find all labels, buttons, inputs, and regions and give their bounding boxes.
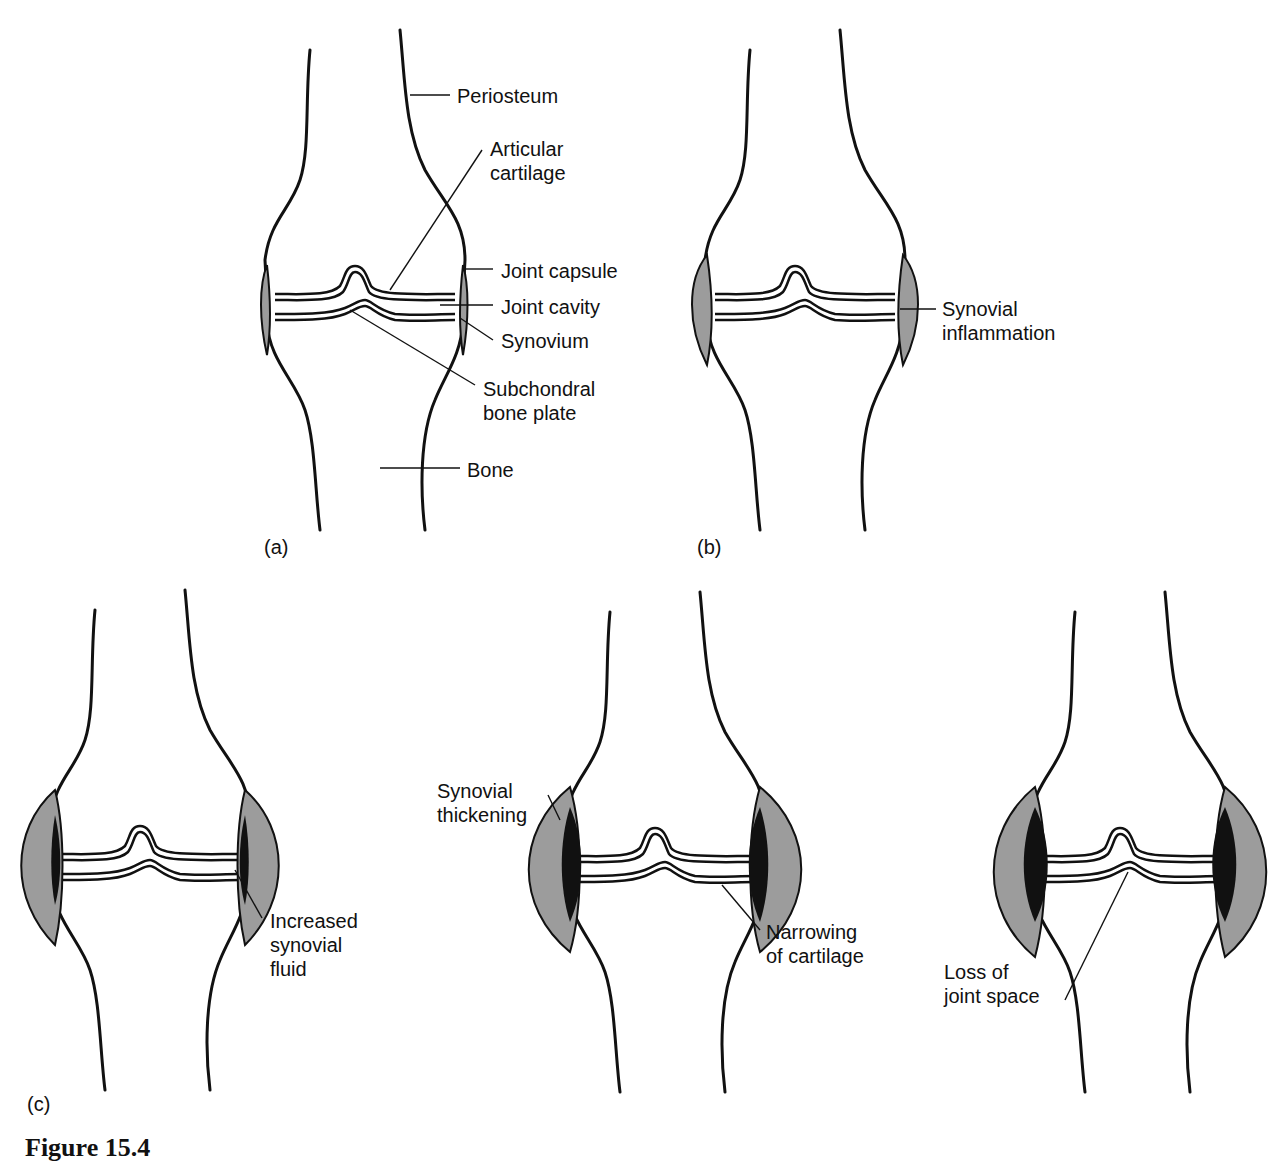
label-joint-cavity: Joint cavity [501, 295, 600, 319]
label-synovial-inflammation: Synovial inflammation [942, 297, 1055, 345]
label-loss-line1: Loss of [944, 960, 1040, 984]
panel-label-c: (c) [27, 1093, 50, 1116]
label-articular-cartilage-line2: cartilage [490, 161, 566, 185]
label-thickening-line1: Synovial [437, 779, 527, 803]
label-increased-synovial-fluid: Increased synovial fluid [270, 909, 358, 981]
label-periosteum: Periosteum [457, 84, 558, 108]
panel-label-b: (b) [697, 536, 721, 559]
label-synovial-thickening: Synovial thickening [437, 779, 527, 827]
panel-b-joint [692, 30, 918, 530]
label-thickening-line2: thickening [437, 803, 527, 827]
label-subchondral-bone-plate: Subchondral bone plate [483, 377, 595, 425]
label-increased-line2: synovial [270, 933, 358, 957]
label-joint-capsule: Joint capsule [501, 259, 618, 283]
panel-c-stage3-joint [994, 592, 1267, 1092]
label-synovium: Synovium [501, 329, 589, 353]
label-increased-line3: fluid [270, 957, 358, 981]
label-articular-cartilage: Articular cartilage [490, 137, 566, 185]
panel-c-stage1-joint [21, 590, 279, 1090]
label-loss-of-joint-space: Loss of joint space [944, 960, 1040, 1008]
label-synovial-inflammation-line1: Synovial [942, 297, 1055, 321]
panel-a-joint [261, 30, 468, 530]
label-narrowing-line2: of cartilage [766, 944, 864, 968]
panel-label-a: (a) [264, 536, 288, 559]
label-synovial-inflammation-line2: inflammation [942, 321, 1055, 345]
label-narrowing-line1: Narrowing [766, 920, 864, 944]
label-bone: Bone [467, 458, 514, 482]
panel-c-stage2-joint [529, 592, 802, 1092]
label-subchondral-line1: Subchondral [483, 377, 595, 401]
panel-c-stage3-leader-line [1065, 872, 1128, 1000]
label-articular-cartilage-line1: Articular [490, 137, 566, 161]
label-increased-line1: Increased [270, 909, 358, 933]
label-loss-line2: joint space [944, 984, 1040, 1008]
figure-caption: Figure 15.4 [25, 1133, 150, 1163]
label-narrowing-of-cartilage: Narrowing of cartilage [766, 920, 864, 968]
panel-a-leader-lines [350, 95, 493, 468]
label-subchondral-line2: bone plate [483, 401, 595, 425]
